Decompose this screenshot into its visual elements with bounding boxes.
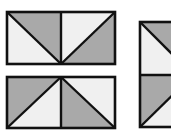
right-vertical-shape xyxy=(140,22,171,127)
bottom-rectangle xyxy=(7,77,115,128)
top-rectangle xyxy=(7,12,115,64)
diagram-canvas xyxy=(0,0,171,133)
